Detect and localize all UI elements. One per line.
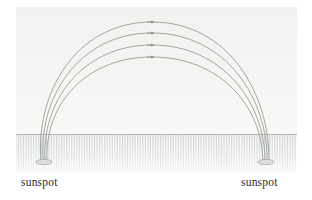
magnetic-loop-diagram: sunspot sunspot — [0, 0, 312, 200]
scene-canvas — [0, 0, 312, 200]
left-sunspot-label: sunspot — [21, 176, 58, 188]
solar-surface — [16, 134, 297, 172]
sky-region — [16, 7, 297, 134]
right-sunspot-marker — [258, 159, 274, 164]
right-sunspot-label: sunspot — [241, 176, 278, 188]
left-sunspot-marker — [36, 159, 52, 164]
